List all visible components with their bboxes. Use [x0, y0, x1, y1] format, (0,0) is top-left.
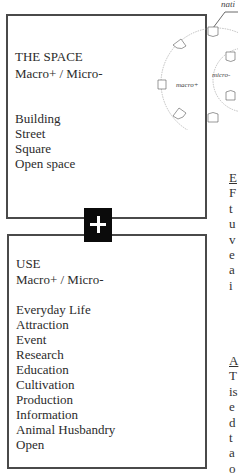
- side-text-line: is: [229, 384, 249, 399]
- use-item: Animal Husbandry: [16, 422, 115, 437]
- use-item: Production: [16, 392, 73, 407]
- macro-label: macro+: [176, 81, 199, 89]
- use-title: USE: [16, 256, 41, 271]
- side-text-block-2: A T is e d t a o: [229, 353, 249, 476]
- side-text-line: u: [229, 216, 249, 231]
- use-box: USE Macro+ / Micro- Everyday Life Attrac…: [7, 234, 207, 469]
- side-text-line: e: [229, 399, 249, 414]
- use-item: Research: [16, 347, 64, 362]
- side-text-line: A: [229, 353, 249, 368]
- side-text-line: a: [229, 445, 249, 460]
- use-item: Event: [16, 332, 46, 347]
- space-title: THE SPACE: [15, 49, 83, 64]
- side-text-line: v: [229, 232, 249, 247]
- space-item: Building: [15, 111, 61, 126]
- macro-micro-circle-diagram: macro+ micro-: [150, 0, 238, 130]
- space-item: Open space: [15, 156, 75, 171]
- plus-icon: [84, 208, 112, 242]
- side-text-line: E: [229, 170, 249, 185]
- side-text-line: T: [229, 368, 249, 383]
- use-item: Cultivation: [16, 377, 75, 392]
- use-item: Attraction: [16, 317, 69, 332]
- side-text-line: e: [229, 247, 249, 262]
- side-text-line: F: [229, 185, 249, 200]
- use-item: Education: [16, 362, 69, 377]
- side-text-line: i: [229, 278, 249, 293]
- use-item: Everyday Life: [16, 302, 91, 317]
- side-text-line: t: [229, 201, 249, 216]
- use-subtitle: Macro+ / Micro-: [16, 272, 103, 287]
- space-item: Square: [15, 141, 51, 156]
- space-item: Street: [15, 126, 45, 141]
- micro-label: micro-: [212, 71, 231, 79]
- side-text-line: o: [229, 461, 249, 476]
- use-item: Open: [16, 437, 44, 452]
- side-text-line: a: [229, 262, 249, 277]
- side-text-line: d: [229, 415, 249, 430]
- side-text-block-1: E F t u v e a i: [229, 170, 249, 293]
- use-item: Information: [16, 407, 78, 422]
- space-subtitle: Macro+ / Micro-: [15, 66, 102, 81]
- side-text-line: t: [229, 430, 249, 445]
